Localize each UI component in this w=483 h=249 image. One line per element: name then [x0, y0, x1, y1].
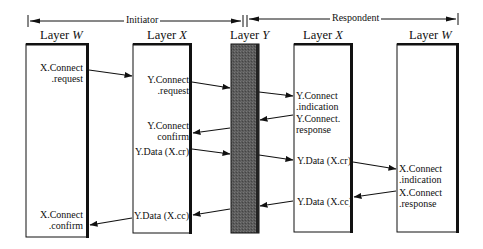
arrow-y-connect-request — [192, 82, 230, 88]
arrow-y-connect-indication — [259, 92, 293, 96]
arrow-y-connect-response — [260, 115, 293, 120]
label-y-data-cr-right: Y.Data (X.cr) — [297, 155, 351, 166]
label-x-connect-response: X.Connect .response — [399, 187, 442, 209]
arrow-x-connect-indication — [353, 162, 396, 169]
label-y-connect-indication: Y.Connect .indication — [296, 90, 339, 112]
label-y-data-cc-left: Y.Data (X.cc) — [134, 210, 189, 221]
arrow-x-connect-request — [89, 70, 132, 76]
label-y-connect-request: Y.Connect .request — [147, 74, 189, 96]
layer-title-w-left: Layer W — [40, 28, 83, 43]
respondent-label: Respondent — [330, 12, 381, 23]
arrow-y-data-cc-left — [193, 209, 230, 215]
initiator-label: Initiator — [124, 14, 160, 25]
label-y-connect-confirm: Y.Connect confirm — [147, 120, 189, 142]
layer-y-box — [231, 44, 259, 233]
arrow-y-data-cr-right — [259, 155, 293, 160]
arrow-y-connect-confirm — [193, 128, 230, 133]
label-y-data-cc-right: Y.Data (X.cc) — [297, 196, 352, 207]
layer-title-y: Layer Y — [230, 28, 269, 43]
label-x-connect-indication: X.Connect .indication — [399, 163, 442, 185]
arrow-y-data-cr-left — [192, 149, 230, 154]
arrow-x-connect-response — [354, 191, 396, 197]
arrow-x-connect-confirm — [90, 218, 132, 225]
label-x-connect-request: X.Connect .request — [40, 62, 83, 84]
layer-title-x-left: Layer X — [147, 28, 187, 43]
label-x-connect-confirm: X.Connect .confirm — [40, 209, 83, 231]
label-y-data-cr-left: Y.Data (X.cr) — [135, 146, 189, 157]
protocol-diagram: Initiator Respondent Layer W Layer X Lay… — [0, 0, 483, 249]
layer-title-w-right: Layer W — [409, 28, 452, 43]
label-y-connect-response: Y.Connect. response — [296, 113, 340, 135]
layer-title-x-right: Layer X — [303, 28, 343, 43]
arrow-y-data-cc-right — [260, 201, 293, 206]
